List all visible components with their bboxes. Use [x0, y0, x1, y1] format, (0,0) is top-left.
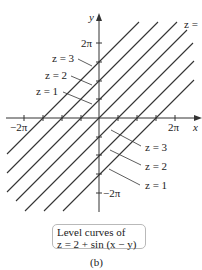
- left-label-z3: z = 3: [52, 53, 74, 64]
- figure-caption: (b): [90, 256, 103, 268]
- right-label-z3: z = 3: [145, 142, 167, 153]
- legend-line-2: z = 2 + sin (x − y): [57, 238, 145, 250]
- level-line: [16, 30, 187, 201]
- left-label-z1: z = 1: [36, 86, 58, 97]
- legend-line-1: Level curves of: [57, 226, 145, 238]
- y-pos-tick-label: 2π: [81, 38, 92, 49]
- x-pos-tick-label: 2π: [168, 122, 179, 133]
- left-label-z2: z = 2: [45, 70, 67, 81]
- level-line: [63, 80, 194, 211]
- top-right-label: z =: [184, 19, 198, 30]
- right-label-z1: z = 1: [145, 180, 167, 191]
- x-neg-tick-label: −2π: [10, 122, 27, 133]
- y-neg-tick-label: −2π: [103, 188, 120, 199]
- y-axis-label: y: [89, 12, 94, 23]
- right-label-z2: z = 2: [145, 161, 167, 172]
- x-axis-label: x: [193, 122, 198, 133]
- y-axis-arrow-icon: [96, 13, 102, 21]
- legend-box: Level curves of z = 2 + sin (x − y): [52, 224, 146, 249]
